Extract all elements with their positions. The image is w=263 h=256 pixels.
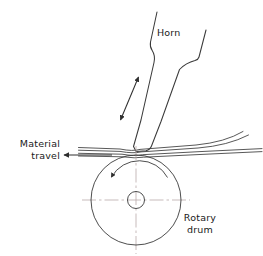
vibration-double-arrow	[121, 77, 139, 120]
rotary-drum	[82, 146, 190, 254]
label-horn: Horn	[157, 27, 181, 39]
drum-rotation-arrow	[112, 161, 168, 178]
figure-canvas: Horn Material travel Rotary drum	[0, 0, 263, 256]
label-material-travel-line1: Material	[20, 138, 60, 149]
label-material-travel: Material travel	[8, 138, 60, 162]
label-horn-text: Horn	[157, 27, 181, 38]
label-rotary-drum: Rotary drum	[178, 212, 222, 236]
label-rotary-drum-line1: Rotary	[184, 212, 216, 223]
material-web	[79, 132, 263, 158]
label-rotary-drum-line2: drum	[178, 224, 222, 236]
diagram-svg	[0, 0, 263, 256]
label-material-travel-line2: travel	[8, 150, 60, 162]
